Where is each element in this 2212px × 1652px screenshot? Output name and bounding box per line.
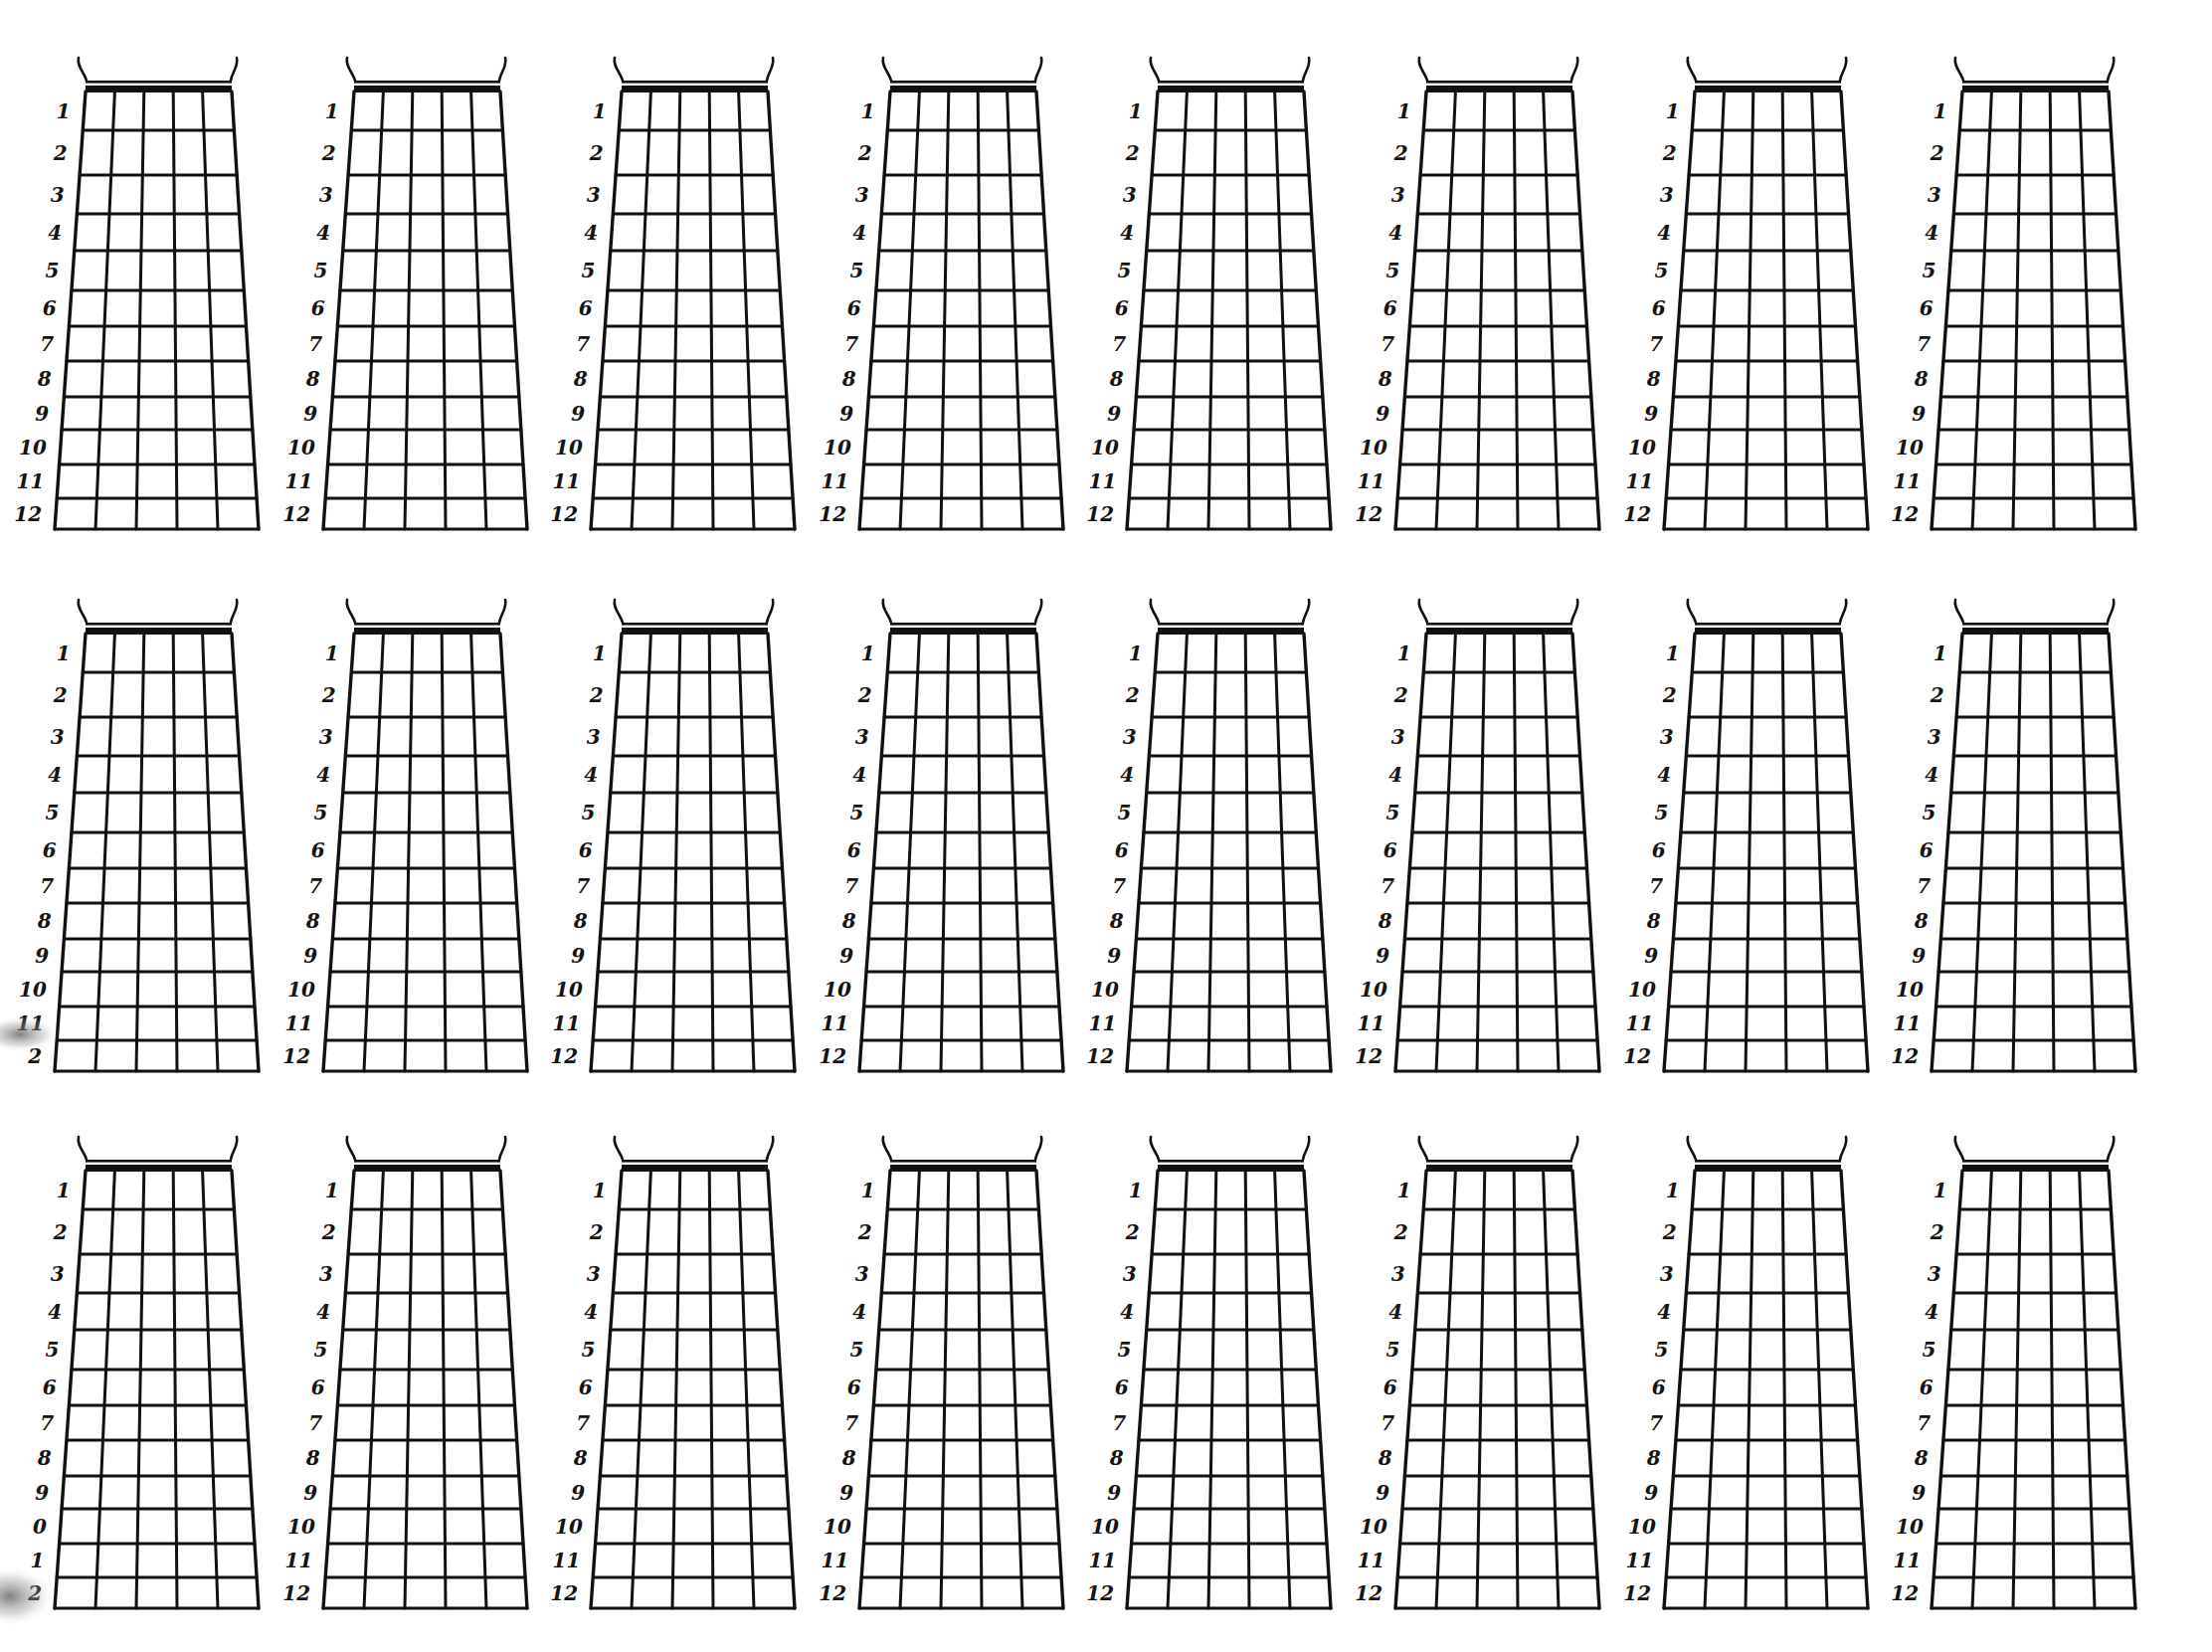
- fret-number-label: 1: [1934, 99, 1947, 123]
- fret-number-label: 3: [1391, 183, 1405, 207]
- nut-top-line: [1426, 1160, 1572, 1163]
- fret-number-label: 5: [1117, 1338, 1131, 1362]
- fret-number-label: 2: [27, 1044, 42, 1068]
- fret-number-label: 9: [1107, 944, 1121, 968]
- nut-top-line: [1962, 81, 2109, 84]
- fret-number-label: 10: [1628, 436, 1656, 459]
- nut-bar: [86, 1165, 232, 1172]
- fret-number-label: 4: [1657, 221, 1671, 245]
- fret-number-label: 2: [1125, 1220, 1140, 1244]
- fret-number-label: 11: [822, 1549, 849, 1572]
- fret-number-label: 7: [308, 1411, 322, 1435]
- fret-number-label: 9: [35, 402, 49, 426]
- nut-top-line: [86, 1160, 232, 1163]
- fret-number-label: 7: [576, 1411, 590, 1435]
- fret-number-label: 3: [319, 183, 333, 207]
- fret-number-label: 8: [37, 367, 52, 391]
- fret-number-label: 3: [1660, 1262, 1674, 1286]
- fret-number-label: 5: [45, 259, 59, 282]
- fret-number-label: 9: [303, 944, 317, 968]
- fret-number-label: 12: [550, 1044, 578, 1068]
- fret-number-label: 9: [1107, 1481, 1121, 1505]
- fret-number-label: 4: [48, 221, 62, 245]
- fret-number-label: 12: [819, 1044, 846, 1068]
- fret-number-label: 9: [1107, 402, 1121, 426]
- fret-number-label: 1: [593, 1179, 607, 1202]
- fret-number-label: 9: [571, 1481, 585, 1505]
- fret-number-label: 1: [1397, 1179, 1411, 1202]
- fret-number-label: 1: [593, 642, 607, 665]
- fret-number-label: 1: [861, 642, 875, 665]
- fret-number-label: 10: [824, 436, 851, 459]
- fret-number-label: 8: [1646, 909, 1661, 933]
- fret-number-label: 3: [855, 1262, 869, 1286]
- fret-number-label: 5: [1922, 259, 1936, 282]
- fret-number-label: 11: [1626, 469, 1654, 493]
- fret-number-label: 11: [1894, 1549, 1922, 1572]
- fret-number-label: 10: [19, 978, 47, 1002]
- nut-bar: [1695, 1165, 1841, 1172]
- fret-number-label: 8: [1109, 1446, 1124, 1470]
- fret-number-label: 2: [53, 1220, 68, 1244]
- fret-number-label: 4: [48, 763, 62, 787]
- fret-number-label: 6: [579, 838, 593, 862]
- fret-number-label: 5: [313, 801, 327, 825]
- nut-bar: [1158, 1165, 1304, 1172]
- fret-number-label: 1: [1934, 1179, 1947, 1202]
- fret-number-label: 3: [855, 183, 869, 207]
- fret-number-label: 5: [849, 259, 863, 282]
- fret-number-label: 1: [1666, 642, 1680, 665]
- fret-number-label: 2: [1393, 683, 1408, 707]
- nut-top-line: [622, 623, 768, 626]
- fret-number-label: 2: [321, 683, 336, 707]
- fret-number-label: 1: [1934, 642, 1947, 665]
- fret-number-label: 4: [584, 221, 598, 245]
- fret-number-label: 7: [1917, 874, 1931, 898]
- fret-number-label: 2: [589, 1220, 604, 1244]
- fret-number-label: 1: [57, 99, 71, 123]
- fret-number-label: 1: [861, 1179, 875, 1202]
- fret-number-label: 11: [1089, 1549, 1117, 1572]
- nut-bar: [1426, 1165, 1572, 1172]
- fret-number-label: 7: [1649, 332, 1663, 356]
- nut-top-line: [622, 1160, 768, 1163]
- nut-bar: [1158, 86, 1304, 92]
- fret-number-label: 4: [316, 1300, 330, 1324]
- fret-number-label: 7: [1917, 1411, 1931, 1435]
- fret-number-label: 8: [841, 367, 856, 391]
- fret-number-label: 10: [1628, 978, 1656, 1002]
- fret-number-label: 5: [1922, 801, 1936, 825]
- fret-number-label: 1: [57, 1179, 71, 1202]
- fret-number-label: 6: [1652, 838, 1666, 862]
- fret-number-label: 6: [311, 838, 325, 862]
- fret-number-label: 3: [319, 1262, 333, 1286]
- fret-number-label: 6: [1115, 1376, 1129, 1399]
- fret-number-label: 9: [839, 402, 853, 426]
- fret-number-label: 3: [1391, 725, 1405, 749]
- fret-number-label: 5: [1385, 801, 1399, 825]
- nut-bar: [1426, 628, 1572, 635]
- fret-number-label: 8: [305, 367, 320, 391]
- fret-number-label: 6: [311, 296, 325, 320]
- fret-number-label: 11: [1358, 1549, 1385, 1572]
- fret-number-label: 7: [1112, 874, 1126, 898]
- nut-top-line: [1962, 1160, 2109, 1163]
- nut-top-line: [1158, 623, 1304, 626]
- fret-number-label: 3: [1123, 183, 1137, 207]
- nut-top-line: [1426, 623, 1572, 626]
- fret-number-label: 1: [1129, 99, 1143, 123]
- fret-number-label: 7: [844, 332, 858, 356]
- fret-number-label: 1: [1397, 99, 1411, 123]
- fret-number-label: 9: [1376, 402, 1389, 426]
- fret-number-label: 8: [1378, 909, 1392, 933]
- fret-number-label: 7: [1381, 332, 1394, 356]
- fret-number-label: 11: [1358, 469, 1385, 493]
- fret-number-label: 6: [43, 1376, 57, 1399]
- fret-number-label: 7: [308, 332, 322, 356]
- nut-top-line: [1695, 1160, 1841, 1163]
- fret-number-label: 8: [573, 1446, 588, 1470]
- nut-bar: [1962, 628, 2109, 635]
- fret-number-label: 12: [282, 1581, 310, 1605]
- fret-number-label: 7: [40, 332, 54, 356]
- fret-number-label: 4: [1120, 221, 1134, 245]
